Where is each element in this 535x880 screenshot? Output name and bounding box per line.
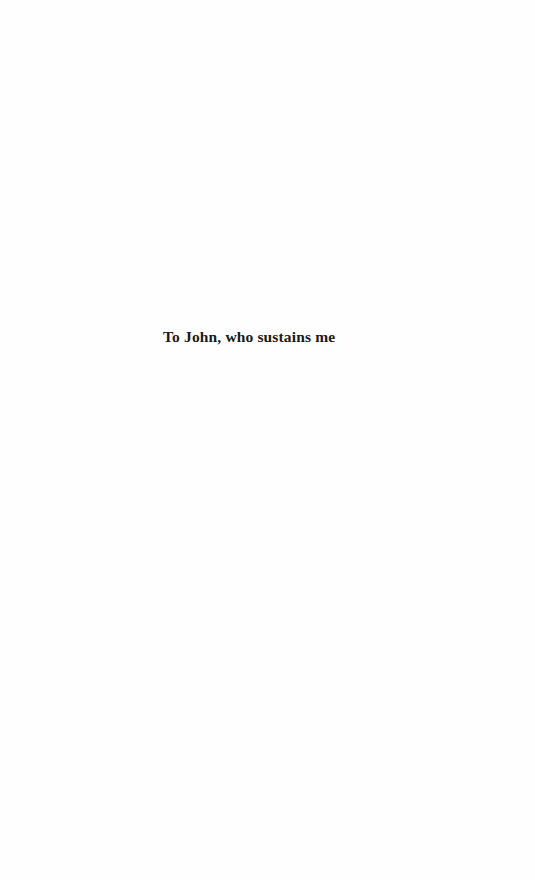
- book-page: To John, who sustains me: [0, 0, 535, 880]
- dedication-text: To John, who sustains me: [163, 327, 335, 347]
